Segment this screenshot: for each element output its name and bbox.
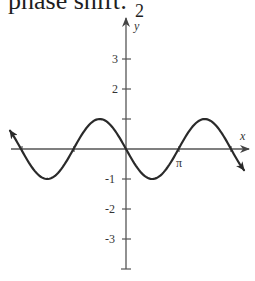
y-tick-label-2: 2 (112, 82, 118, 96)
y-tick-label-neg3: -3 (105, 232, 115, 246)
x-axis-label: x (239, 129, 246, 143)
x-tick-label-pi: π (176, 156, 182, 170)
sine-graph: 3 2 -1 -2 -3 π x y (0, 0, 255, 281)
y-tick-label-neg2: -2 (105, 202, 115, 216)
y-tick-label-3: 3 (112, 52, 118, 66)
y-tick-label-neg1: -1 (105, 172, 115, 186)
y-axis-label: y (133, 19, 140, 33)
